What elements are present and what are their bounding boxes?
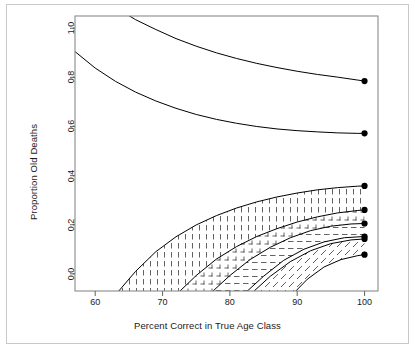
x-tick-label: 60: [90, 297, 100, 307]
x-axis-ticks: [95, 291, 364, 296]
y-tick-label-text: 0.6: [66, 120, 76, 133]
y-axis-title-text: Proportion Old Deaths: [28, 124, 39, 220]
y-tick-label-text: 0.0: [66, 268, 76, 281]
x-tick-label: 70: [158, 297, 168, 307]
y-axis-ticks: [70, 28, 75, 274]
plot-canvas: [0, 0, 415, 361]
y-tick-label-text: 0.2: [66, 218, 76, 231]
endpoint-marker: [361, 236, 367, 242]
x-tick-label: 100: [357, 297, 372, 307]
endpoint-marker: [361, 130, 367, 136]
chart-figure: 60708090100 0.00.20.40.60.81.0 Percent C…: [0, 0, 415, 361]
y-tick-label-text: 0.8: [66, 71, 76, 84]
endpoint-marker: [361, 252, 367, 258]
y-tick-label-text: 1.0: [66, 22, 76, 35]
endpoint-marker: [361, 183, 367, 189]
y-tick-label-text: 0.4: [66, 169, 76, 182]
x-axis-title: Percent Correct in True Age Class: [0, 320, 415, 331]
x-tick-label: 90: [292, 297, 302, 307]
endpoint-marker: [361, 207, 367, 213]
endpoint-marker: [361, 220, 367, 226]
x-tick-label: 80: [225, 297, 235, 307]
endpoint-marker: [361, 78, 367, 84]
